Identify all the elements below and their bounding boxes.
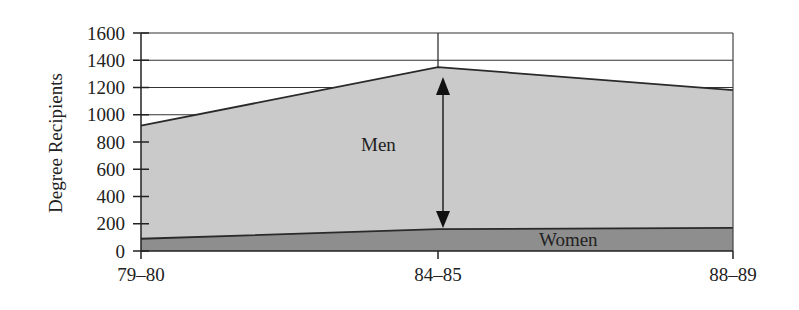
x-tick-label: 84–85 [414,264,462,285]
y-tick-label: 1000 [87,104,125,125]
x-tick-label: 79–80 [117,264,165,285]
y-tick-label: 1600 [87,23,125,44]
y-tick-label: 400 [97,186,126,207]
women-label: Women [539,229,598,250]
y-tick-label: 600 [97,159,126,180]
y-tick-label: 200 [97,213,126,234]
y-tick-label: 0 [116,241,126,262]
y-tick-label: 800 [97,132,126,153]
men-label: Men [361,134,396,155]
x-tick-label: 88–89 [709,264,757,285]
y-tick-label: 1200 [87,77,125,98]
y-tick-label: 1400 [87,50,125,71]
y-axis-label: Degree Recipients [45,73,66,213]
y-ticks: 02004006008001000120014001600 [87,23,149,262]
x-ticks: 79–8084–8588–89 [117,251,757,285]
area-chart: 02004006008001000120014001600 79–8084–85… [0,0,799,310]
